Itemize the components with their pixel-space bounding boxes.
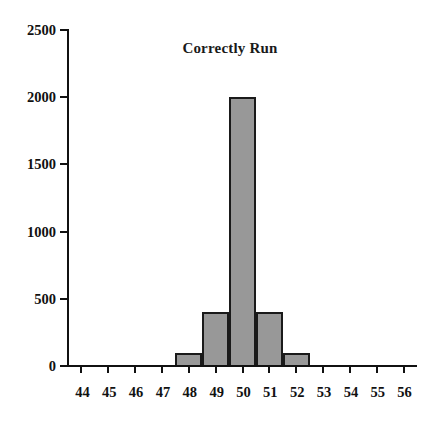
histogram-bar — [229, 97, 256, 366]
x-axis-tick-label: 48 — [175, 385, 205, 400]
y-axis-tick-label: 2500 — [2, 23, 56, 38]
x-axis-tick-label: 54 — [336, 385, 366, 400]
x-axis-tick-label: 45 — [94, 385, 124, 400]
plot-area — [0, 0, 439, 424]
histogram-chart: Correctly Run 05001000150020002500 44454… — [0, 0, 439, 424]
x-axis-line — [67, 365, 417, 367]
y-axis-tick-label: 0 — [2, 359, 56, 374]
y-axis-tick-label: 500 — [2, 292, 56, 307]
histogram-bar — [283, 353, 310, 366]
y-axis-tick-label: 1000 — [2, 225, 56, 240]
y-axis-tick-label: 1500 — [2, 157, 56, 172]
x-axis-tick-label: 53 — [309, 385, 339, 400]
histogram-bar — [202, 312, 229, 366]
x-axis-tick-label: 44 — [67, 385, 97, 400]
histogram-bar — [175, 353, 202, 366]
histogram-bar — [256, 312, 283, 366]
x-axis-tick-label: 56 — [390, 385, 420, 400]
x-axis-tick-label: 46 — [121, 385, 151, 400]
y-axis-line — [67, 29, 69, 367]
x-axis-tick-label: 55 — [363, 385, 393, 400]
x-axis-tick-label: 50 — [229, 385, 259, 400]
x-axis-tick-label: 51 — [255, 385, 285, 400]
y-axis-tick-label: 2000 — [2, 90, 56, 105]
x-axis-tick-label: 49 — [202, 385, 232, 400]
chart-title: Correctly Run — [150, 40, 310, 57]
x-axis-tick-label: 47 — [148, 385, 178, 400]
x-axis-tick-label: 52 — [282, 385, 312, 400]
